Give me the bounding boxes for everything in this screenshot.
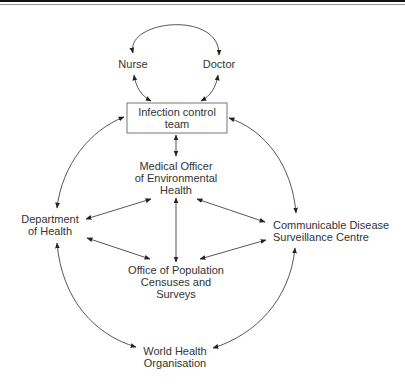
communication-diagram: Nurse Doctor Infection control team Medi…: [0, 0, 405, 387]
node-communicable-disease-surveillance-centre: Communicable Disease Surveillance Centre: [273, 219, 389, 243]
edge-nurse-doctor: [133, 25, 219, 55]
ict-line-1: Infection control: [138, 106, 216, 118]
opcs-line-2: Censuses and: [141, 276, 211, 288]
who-line-1: World Health: [143, 345, 206, 357]
doh-line-2: of Health: [28, 225, 72, 237]
node-nurse: Nurse: [118, 58, 147, 70]
opcs-line-3: Surveys: [156, 288, 196, 300]
node-department-of-health: Department of Health: [21, 213, 78, 237]
moeh-line-1: Medical Officer: [139, 160, 212, 172]
moeh-line-2: of Environmental: [135, 172, 218, 184]
edge-cdsc-who: [213, 248, 295, 348]
node-medical-officer-environmental-health: Medical Officer of Environmental Health: [135, 160, 218, 196]
edge-doh-who: [57, 243, 136, 347]
edge-moeh-cdsc: [197, 199, 265, 222]
node-doctor: Doctor: [203, 58, 236, 70]
node-office-population-censuses-surveys: Office of Population Censuses and Survey…: [128, 264, 224, 300]
edge-ict-cdsc: [229, 118, 296, 213]
ict-line-2: team: [165, 118, 189, 130]
doh-line-1: Department: [21, 213, 78, 225]
edge-doh-moeh: [86, 199, 151, 219]
opcs-line-1: Office of Population: [128, 264, 224, 276]
edge-nurse-ict: [134, 75, 151, 101]
edge-doctor-ict: [201, 75, 218, 101]
cdsc-line-2: Surveillance Centre: [273, 231, 369, 243]
who-line-2: Organisation: [144, 357, 206, 369]
edge-doh-opcs: [87, 238, 150, 259]
cdsc-line-1: Communicable Disease: [273, 219, 389, 231]
edge-ict-doh: [57, 117, 124, 208]
node-world-health-organisation: World Health Organisation: [143, 345, 206, 369]
moeh-line-3: Health: [160, 184, 192, 196]
edge-opcs-cdsc: [200, 240, 266, 259]
